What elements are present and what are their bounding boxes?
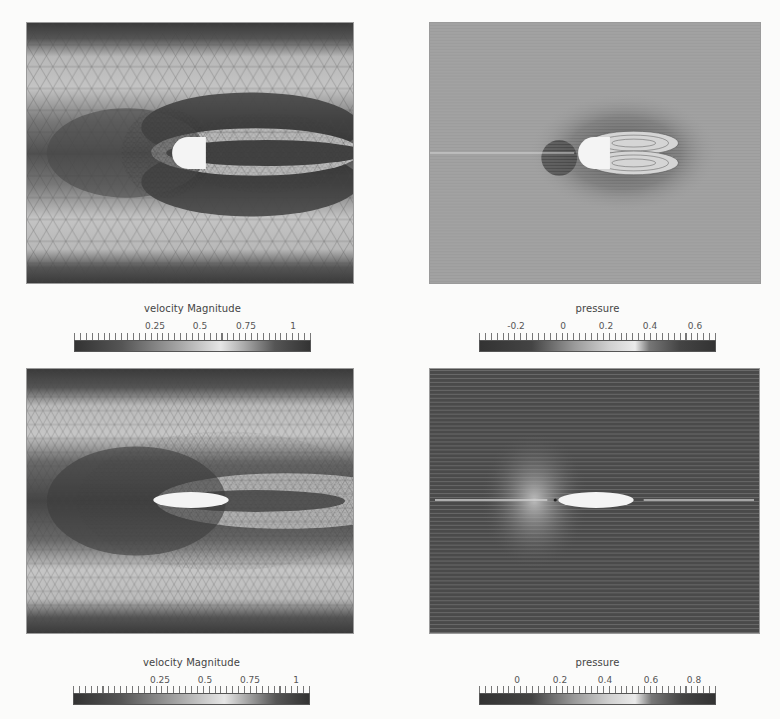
colorbar-title: pressure <box>479 657 716 668</box>
ellipse-body-shape <box>558 492 634 508</box>
velocity-field-plot <box>27 23 353 283</box>
colorbar-tick-label: 1 <box>290 321 296 331</box>
colorbar-gradient <box>479 693 716 705</box>
colorbar-tick-label: 0.4 <box>598 675 612 685</box>
ellipse-body-shape <box>153 492 229 508</box>
colorbar-tick-label: 0.5 <box>193 321 207 331</box>
colorbar-tick-label: 0.25 <box>150 675 170 685</box>
colorbar-title: velocity Magnitude <box>73 657 310 668</box>
colorbar-tick-label: 0.6 <box>644 675 658 685</box>
colorbar-tick-label: 0.2 <box>553 675 567 685</box>
velocity-panel-ellipse <box>26 368 354 634</box>
colorbar-ticks <box>74 333 311 340</box>
colorbar-tick-label: 0.5 <box>198 675 212 685</box>
colorbar-tick-label: -0.2 <box>507 321 525 331</box>
colorbar-tick-label: 0 <box>514 675 520 685</box>
colorbar-ticks <box>479 333 716 340</box>
pressure-field-plot <box>430 23 760 283</box>
colorbar-gradient <box>479 340 716 352</box>
pressure-panel-ellipse <box>429 368 760 634</box>
colorbar-tick-label: 0 <box>560 321 566 331</box>
colorbar-ticks <box>73 686 310 693</box>
pressure-field-plot <box>430 369 759 633</box>
blunt-body-shape <box>578 137 610 169</box>
colorbar-tick-label: 0.75 <box>236 321 256 331</box>
colorbar-title: velocity Magnitude <box>74 303 311 314</box>
colorbar-tick-label: 1 <box>293 675 299 685</box>
colorbar-ticks <box>479 686 716 693</box>
colorbar-tick-label: 0.4 <box>643 321 657 331</box>
blunt-body-shape <box>172 137 206 169</box>
colorbar-gradient <box>74 340 311 352</box>
colorbar-tick-label: 0.2 <box>599 321 613 331</box>
velocity-field-plot <box>27 369 353 633</box>
colorbar-title: pressure <box>479 303 716 314</box>
colorbar-gradient <box>73 693 310 705</box>
colorbar-tick-label: 0.75 <box>240 675 260 685</box>
colorbar-tick-label: 0.8 <box>687 675 701 685</box>
colorbar-tick-label: 0.6 <box>688 321 702 331</box>
velocity-panel-blunt-body <box>26 22 354 284</box>
colorbar-tick-label: 0.25 <box>145 321 165 331</box>
pressure-panel-blunt-body <box>429 22 761 284</box>
